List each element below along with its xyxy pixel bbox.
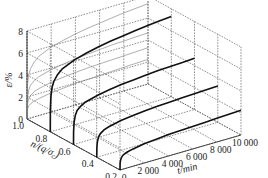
- z-tick-label: 2: [18, 93, 23, 103]
- grid-line: [27, 40, 148, 75]
- grid-line: [27, 18, 148, 53]
- z-tick-label: 4: [18, 71, 23, 81]
- y-tick-label: 0.4: [82, 159, 94, 169]
- projection-curve: [27, 33, 148, 119]
- y-tick-label: 1.0: [12, 121, 24, 131]
- creep-3d-chart: 024681.00.80.60.40.202 0004 0006 0008 00…: [0, 0, 268, 178]
- z-tick-label: 8: [18, 27, 23, 37]
- grid-line: [148, 0, 241, 47]
- z-axis-label: ε/%: [3, 72, 14, 87]
- z-tick-label: 6: [18, 49, 23, 59]
- y-tick-label: 0.2: [105, 172, 117, 178]
- projection-curve: [27, 48, 148, 119]
- x-tick-label: 2 000: [138, 166, 160, 176]
- x-tick-label: 0: [122, 173, 127, 178]
- grid-line: [27, 0, 148, 31]
- x-tick-label: 10 000: [232, 138, 258, 148]
- grid-line: [75, 105, 168, 156]
- x-tick-label: 6 000: [186, 152, 208, 162]
- x-tick-label: 8 000: [210, 145, 232, 155]
